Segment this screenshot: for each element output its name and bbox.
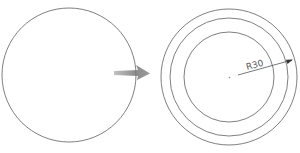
transition-arrow-icon (114, 65, 150, 80)
radius-dimension: R30 (238, 58, 293, 75)
offset-diagram: R30 (0, 0, 300, 153)
center-point (229, 77, 231, 79)
radius-label: R30 (245, 58, 265, 72)
concentric-circles (161, 9, 297, 145)
